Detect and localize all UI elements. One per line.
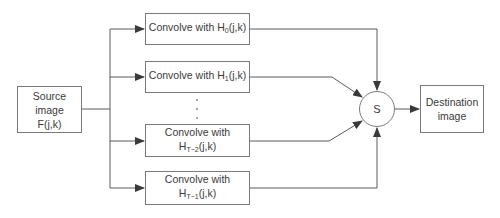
filter-label: Convolve with HT−1(j,k): [146, 172, 249, 204]
filter-box-ht-1: Convolve with HT−1(j,k): [145, 171, 250, 205]
filter-label: Convolve with H1(j,k): [149, 68, 246, 86]
filter-label: Convolve with HT−2(j,k): [146, 125, 249, 157]
summer-node: S: [359, 91, 395, 127]
filter-box-h1: Convolve with H1(j,k): [145, 61, 250, 93]
source-function-label: F(j,k): [38, 117, 62, 131]
destination-label-2: image: [438, 109, 467, 123]
filter-box-ht-2: Convolve with HT−2(j,k): [145, 124, 250, 157]
summer-label: S: [373, 103, 380, 115]
filter-label: Convolve with H0(j,k): [149, 20, 246, 38]
destination-image-box: Destination image: [420, 85, 484, 133]
filter-box-h0: Convolve with H0(j,k): [145, 13, 250, 45]
source-image-box: Source image F(j,k): [17, 86, 82, 133]
source-label: Source image: [18, 89, 81, 117]
ellipsis-dot: [196, 117, 198, 119]
ellipsis-dot: [196, 99, 198, 101]
destination-label: Destination: [426, 95, 479, 109]
ellipsis-dot: [196, 108, 198, 110]
